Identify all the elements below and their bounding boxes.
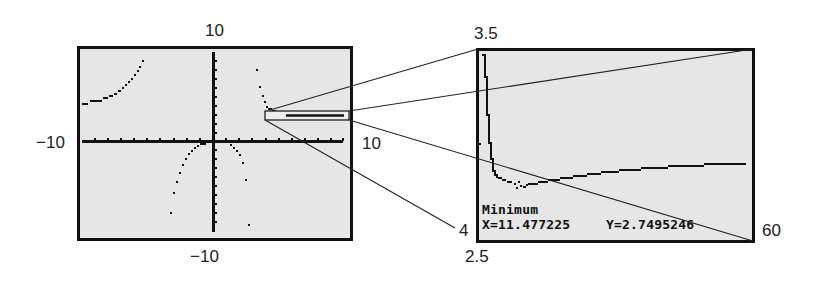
left-ymax-label: 10	[205, 22, 224, 39]
right-ymin-label: 2.5	[465, 248, 489, 265]
right-xmax-label: 60	[762, 222, 781, 239]
minimum-readout-title: Minimum	[482, 203, 538, 217]
minimum-readout-y: Y=2.7495246	[606, 218, 694, 232]
minimum-readout-x: X=11.477225	[482, 218, 570, 232]
right-xmin-label: 4	[459, 222, 468, 239]
graph-plots	[0, 0, 820, 282]
left-xmax-label: 10	[362, 135, 381, 152]
left-ymin-label: −10	[190, 248, 219, 265]
left-xmin-label: −10	[36, 134, 65, 151]
right-ymax-label: 3.5	[474, 25, 498, 42]
zoom-box	[265, 111, 349, 120]
right-plot-curve	[479, 54, 746, 189]
